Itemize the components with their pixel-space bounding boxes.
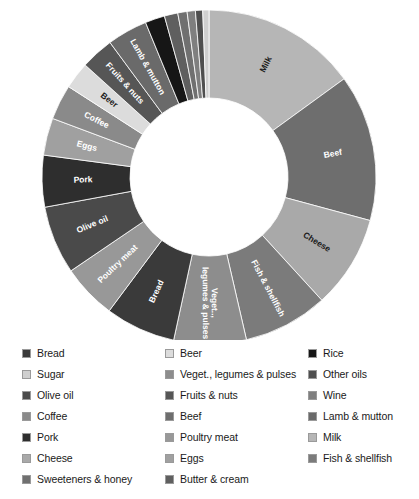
legend-item[interactable]: Sugar bbox=[22, 364, 165, 385]
legend-swatch-icon bbox=[22, 370, 31, 379]
legend-item-label: Beer bbox=[180, 348, 202, 359]
legend-swatch-icon bbox=[22, 391, 31, 400]
legend-item[interactable]: Lamb & mutton bbox=[308, 406, 419, 427]
legend-item-label: Wine bbox=[323, 390, 347, 401]
legend-swatch-icon bbox=[308, 454, 317, 463]
legend-item[interactable]: Sweeteners & honey bbox=[22, 469, 165, 490]
legend-swatch-icon bbox=[165, 370, 174, 379]
legend-item-label: Other oils bbox=[323, 369, 367, 380]
legend-item-label: Fruits & nuts bbox=[180, 390, 238, 401]
legend-item-label: Olive oil bbox=[37, 390, 73, 401]
legend-swatch-icon bbox=[165, 454, 174, 463]
legend-item[interactable]: Olive oil bbox=[22, 385, 165, 406]
legend-item[interactable]: Other oils bbox=[308, 364, 419, 385]
legend-item-label: Pork bbox=[37, 432, 58, 443]
legend-swatch-icon bbox=[308, 433, 317, 442]
legend-item-label: Beef bbox=[180, 411, 201, 422]
donut-chart-svg: MilkBeefCheeseFish & shellfishVeget..,le… bbox=[0, 0, 419, 340]
legend-item[interactable]: Fish & shellfish bbox=[308, 448, 419, 469]
legend-item-label: Coffee bbox=[37, 411, 67, 422]
chart-legend: BreadBeerRiceSugarVeget., legumes & puls… bbox=[0, 343, 419, 499]
legend-swatch-icon bbox=[22, 433, 31, 442]
legend-item-label: Veget., legumes & pulses bbox=[180, 369, 296, 380]
legend-item[interactable]: Beer bbox=[165, 343, 308, 364]
donut-chart: MilkBeefCheeseFish & shellfishVeget..,le… bbox=[0, 0, 419, 340]
legend-swatch-icon bbox=[165, 412, 174, 421]
legend-item-label: Rice bbox=[323, 348, 344, 359]
legend-item-label: Eggs bbox=[180, 453, 204, 464]
legend-item[interactable]: Wine bbox=[308, 385, 419, 406]
legend-swatch-icon bbox=[308, 412, 317, 421]
legend-item[interactable]: Eggs bbox=[165, 448, 308, 469]
legend-swatch-icon bbox=[165, 433, 174, 442]
legend-item[interactable]: Cheese bbox=[22, 448, 165, 469]
legend-item[interactable]: Fruits & nuts bbox=[165, 385, 308, 406]
legend-item-label: Lamb & mutton bbox=[323, 411, 393, 422]
legend-item[interactable]: Veget., legumes & pulses bbox=[165, 364, 308, 385]
legend-item-label: Bread bbox=[37, 348, 65, 359]
legend-item[interactable]: Rice bbox=[308, 343, 419, 364]
legend-item-label: Fish & shellfish bbox=[323, 453, 392, 464]
legend-swatch-icon bbox=[165, 349, 174, 358]
legend-item-label: Butter & cream bbox=[180, 474, 249, 485]
legend-swatch-icon bbox=[308, 370, 317, 379]
legend-item-label: Cheese bbox=[37, 453, 73, 464]
legend-swatch-icon bbox=[308, 349, 317, 358]
legend-item-label: Sweeteners & honey bbox=[37, 474, 132, 485]
legend-item[interactable]: Poultry meat bbox=[165, 427, 308, 448]
legend-swatch-icon bbox=[22, 349, 31, 358]
legend-swatch-icon bbox=[165, 391, 174, 400]
legend-item[interactable]: Beef bbox=[165, 406, 308, 427]
legend-swatch-icon bbox=[22, 454, 31, 463]
donut-slice-label: Pork bbox=[73, 174, 92, 184]
legend-item[interactable]: Milk bbox=[308, 427, 419, 448]
legend-item-label: Sugar bbox=[37, 369, 65, 380]
legend-swatch-icon bbox=[165, 475, 174, 484]
legend-swatch-icon bbox=[22, 412, 31, 421]
legend-item[interactable]: Butter & cream bbox=[165, 469, 308, 490]
legend-item-label: Milk bbox=[323, 432, 341, 443]
legend-item[interactable]: Bread bbox=[22, 343, 165, 364]
legend-item-label: Poultry meat bbox=[180, 432, 238, 443]
legend-swatch-icon bbox=[308, 391, 317, 400]
legend-item[interactable]: Pork bbox=[22, 427, 165, 448]
legend-item[interactable]: Coffee bbox=[22, 406, 165, 427]
legend-swatch-icon bbox=[22, 475, 31, 484]
